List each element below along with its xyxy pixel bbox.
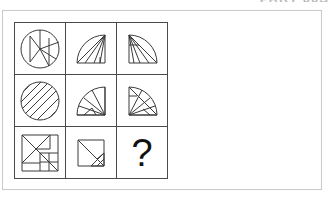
figure-quarter-circle-fan-2 (125, 32, 159, 66)
figure-square-tangram-1 (20, 133, 60, 173)
figure-quarter-circle-fan-1 (74, 32, 108, 66)
figure-circle-segmented (19, 28, 61, 70)
figure-circle-hatched (19, 80, 61, 122)
figure-quarter-circle-fan-4 (125, 84, 159, 118)
matrix-cell-r3c2[interactable] (66, 127, 117, 179)
matrix-cell-r1c3[interactable] (117, 23, 168, 75)
matrix-grid: ? (14, 22, 168, 179)
matrix-cell-r1c2[interactable] (66, 23, 117, 75)
matrix-cell-r2c1[interactable] (15, 75, 66, 127)
clipped-header-text: PART 00S (260, 0, 329, 2)
figure-quarter-circle-fan-3 (74, 84, 108, 118)
page-root: PART 00S (0, 0, 335, 198)
figure-square-tangram-2 (75, 137, 107, 169)
matrix-cell-r3c3-answer[interactable]: ? (117, 127, 168, 179)
matrix-cell-r1c1[interactable] (15, 23, 66, 75)
matrix-cell-r2c2[interactable] (66, 75, 117, 127)
question-mark-placeholder: ? (131, 134, 152, 172)
question-frame: ? (2, 10, 322, 190)
matrix-cell-r3c1[interactable] (15, 127, 66, 179)
matrix-cell-r2c3[interactable] (117, 75, 168, 127)
